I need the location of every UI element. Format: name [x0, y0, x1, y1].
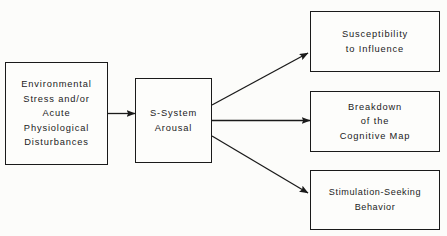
node-line: of the — [361, 114, 389, 129]
node-line: Acute — [42, 106, 70, 121]
node-s-system-arousal: S-System Arousal — [135, 78, 212, 163]
node-breakdown-of-cognitive-map: Breakdown of the Cognitive Map — [310, 91, 440, 152]
node-line: Physiological — [24, 121, 89, 136]
node-line: Stimulation-Seeking — [329, 185, 421, 200]
node-environmental-stress: Environmental Stress and/or Acute Physio… — [5, 62, 108, 165]
edge-arousal-to-susceptibility — [212, 53, 308, 105]
node-line: Behavior — [355, 200, 396, 215]
node-line: Susceptibility — [342, 27, 408, 42]
node-line: S-System — [150, 106, 197, 121]
node-line: Breakdown — [348, 100, 402, 115]
node-line: Arousal — [155, 121, 192, 136]
node-susceptibility-to-influence: Susceptibility to Influence — [310, 11, 440, 72]
node-line: Stress and/or — [23, 92, 89, 107]
edge-arousal-to-stimulation-seeking — [212, 136, 308, 193]
node-line: Disturbances — [24, 135, 88, 150]
node-line: Cognitive Map — [340, 129, 410, 144]
node-line: to Influence — [346, 42, 404, 57]
node-line: Environmental — [21, 77, 91, 92]
flowchart-diagram: Environmental Stress and/or Acute Physio… — [0, 0, 447, 236]
node-stimulation-seeking-behavior: Stimulation-Seeking Behavior — [310, 170, 440, 230]
